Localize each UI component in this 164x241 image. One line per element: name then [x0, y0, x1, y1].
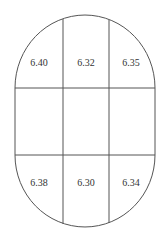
cell-bottom-center: 6.30 — [63, 177, 109, 189]
cell-top-center: 6.32 — [63, 57, 109, 69]
cell-top-right: 6.35 — [108, 57, 154, 69]
cell-top-left: 6.40 — [16, 57, 62, 69]
stadium-diagram — [0, 0, 164, 241]
cell-bottom-left: 6.38 — [16, 177, 62, 189]
outline — [15, 15, 155, 227]
cell-bottom-right: 6.34 — [108, 177, 154, 189]
